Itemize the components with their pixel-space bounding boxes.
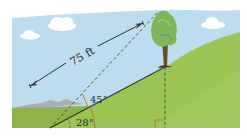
tree-on-hill-diagram: 75 ft 45° 28° <box>0 0 247 138</box>
angle-label-28: 28° <box>76 117 94 128</box>
angle-label-45: 45° <box>90 94 108 105</box>
diagram-canvas: 75 ft 45° 28° <box>0 0 247 138</box>
